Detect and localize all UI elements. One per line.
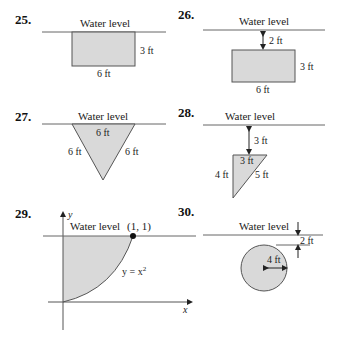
water-level-label: Water level [70, 220, 120, 232]
point-label: (1, 1) [127, 220, 151, 233]
depth-label: 2 ft [269, 35, 283, 46]
water-level-label: Water level [239, 15, 289, 27]
submerged-rectangle [232, 50, 295, 82]
point-marker [130, 233, 136, 239]
hypotenuse-label: 5 ft [255, 169, 269, 180]
problem-number: 26. [178, 7, 194, 22]
depth-label: 2 ft [300, 235, 314, 246]
width-label: 6 ft [97, 68, 111, 79]
y-axis-label: y [67, 209, 73, 220]
height-label: 3 ft [140, 45, 154, 56]
water-level-label: Water level [78, 110, 128, 122]
top-label: 6 ft [96, 127, 110, 138]
problem-28: 28. Water level 3 ft 3 ft 4 ft 5 ft [178, 105, 325, 198]
height-label: 3 ft [300, 61, 314, 72]
curve-label: y = x2 [122, 265, 147, 277]
problem-number: 28. [178, 105, 194, 120]
left-label: 4 ft [215, 169, 229, 180]
problem-25: 25. Water level 3 ft 6 ft [15, 12, 166, 79]
figure-canvas: 25. Water level 3 ft 6 ft 26. Water leve… [0, 0, 340, 341]
water-level-label: Water level [80, 17, 130, 29]
top-label: 3 ft [240, 155, 254, 166]
problem-number: 27. [15, 109, 31, 124]
depth-label: 3 ft [254, 135, 268, 146]
problem-26: 26. Water level 2 ft 3 ft 6 ft [178, 7, 325, 95]
submerged-rectangle [72, 32, 135, 66]
problem-number: 29. [15, 206, 31, 221]
problem-29: 29. y Water level (1, 1) y = x2 x [15, 206, 196, 330]
width-label: 6 ft [256, 84, 270, 95]
radius-label: 4 ft [267, 254, 281, 265]
water-level-label: Water level [239, 220, 289, 232]
right-label: 6 ft [125, 146, 139, 157]
problem-number: 30. [178, 204, 194, 219]
problem-number: 25. [15, 12, 31, 27]
left-label: 6 ft [68, 146, 82, 157]
problem-27: 27. Water level 6 ft 6 ft 6 ft [15, 109, 166, 180]
x-axis-label: x [182, 304, 188, 315]
problem-30: 30. Water level 2 ft 4 ft [178, 204, 323, 291]
water-level-label: Water level [225, 110, 275, 122]
